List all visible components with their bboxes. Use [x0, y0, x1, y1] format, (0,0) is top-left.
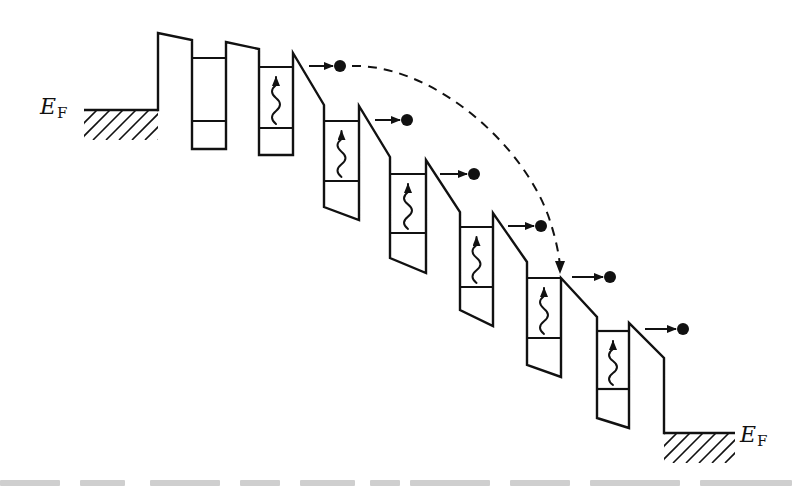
- caption-text-fragment: [370, 480, 400, 486]
- photon-absorption-wavy-arrow-icon: [272, 77, 280, 124]
- quantum-well: [460, 227, 493, 287]
- escaping-electron: [572, 271, 616, 283]
- caption-text-fragment: [150, 480, 220, 486]
- electron-dot-icon: [401, 114, 413, 126]
- dashed-curve: [352, 66, 560, 266]
- caption-text-fragment: [300, 480, 355, 486]
- emitter-contact: [54, 110, 188, 140]
- right-fermi-label: EF: [739, 422, 767, 450]
- caption-text-fragment: [80, 480, 125, 486]
- left-fermi-label: EF: [39, 94, 67, 122]
- caption-text-fragment: [590, 480, 680, 486]
- quantum-well: [192, 58, 226, 121]
- photoexcited-electrons: [309, 60, 689, 335]
- electron-dot-icon: [468, 168, 480, 180]
- escaping-electron: [440, 168, 480, 180]
- caption-text-fragment: [700, 480, 792, 486]
- qwip-band-diagram: EF EF: [0, 0, 792, 486]
- photon-absorption-wavy-arrow-icon: [404, 184, 412, 229]
- photon-absorption-wavy-arrow-icon: [540, 288, 548, 334]
- fermi-symbol: E: [39, 94, 56, 119]
- fermi-subscript: F: [57, 104, 67, 122]
- electron-dot-icon: [604, 271, 616, 283]
- caption-text-fragment: [240, 480, 280, 486]
- electron-dot-icon: [535, 220, 547, 232]
- electron-dot-icon: [334, 60, 346, 72]
- svg-text:EF: EF: [39, 94, 67, 122]
- quantum-well: [597, 331, 629, 389]
- electron-trajectory-dashed: [352, 66, 565, 274]
- down-arrowhead-icon: [555, 261, 565, 274]
- quantum-well: [390, 174, 426, 233]
- quantum-well: [324, 121, 359, 181]
- photon-absorption-wavy-arrow-icon: [473, 237, 481, 283]
- fermi-symbol: E: [739, 422, 756, 447]
- caption-text-fragment: [510, 480, 570, 486]
- quantum-wells: [192, 58, 629, 389]
- photon-absorption-wavy-arrow-icon: [338, 131, 346, 177]
- escaping-electron: [508, 220, 547, 232]
- emitter-fermi-sea: [54, 110, 188, 140]
- caption-text-fragment: [0, 480, 60, 486]
- escaping-electron: [375, 114, 413, 126]
- caption-text-fragment: [410, 480, 490, 486]
- fermi-subscript: F: [757, 432, 767, 450]
- hatch-fill: [54, 110, 188, 140]
- escaping-electron: [645, 323, 689, 335]
- quantum-well: [527, 278, 561, 338]
- figure-caption-clipped: [0, 478, 792, 486]
- quantum-well: [259, 67, 293, 128]
- photon-absorption-wavy-arrow-icon: [609, 341, 617, 385]
- escaping-electron: [309, 60, 346, 72]
- svg-text:EF: EF: [739, 422, 767, 450]
- electron-dot-icon: [677, 323, 689, 335]
